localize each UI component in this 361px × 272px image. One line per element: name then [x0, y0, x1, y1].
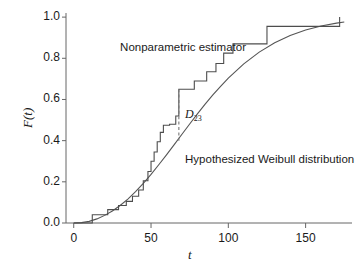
y-tick-label: 0.2: [34, 174, 60, 188]
x-tick-label: 0: [54, 231, 94, 245]
y-axis-label: F(t): [20, 108, 36, 128]
y-tick-label: 0.6: [34, 91, 60, 105]
hypothesized-weibull-annotation: Hypothesized Weibull distribution: [185, 153, 354, 165]
y-tick-label: 0.4: [34, 133, 60, 147]
x-tick-label: 50: [131, 231, 171, 245]
x-axis-ticks: [74, 223, 306, 228]
y-axis-ticks: [62, 17, 66, 223]
d23-annotation: D23: [185, 107, 202, 123]
y-tick-label: 1.0: [34, 9, 60, 23]
nonparametric-estimator-annotation: Nonparametric estimator: [120, 41, 246, 53]
y-tick-label: 0.0: [34, 215, 60, 229]
x-axis-label: t: [188, 247, 192, 263]
x-tick-label: 100: [208, 231, 248, 245]
x-tick-label: 150: [286, 231, 326, 245]
chart-figure: 0.00.20.40.60.81.0 050100150 F(t) t Nonp…: [0, 0, 361, 272]
y-tick-label: 0.8: [34, 50, 60, 64]
